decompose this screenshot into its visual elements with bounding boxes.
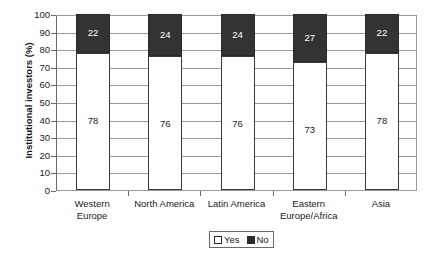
x-axis-tick-mark [273, 191, 274, 196]
y-axis-tick-label: 20 [20, 151, 50, 161]
bar-segment-no[interactable]: 24 [148, 14, 182, 56]
y-axis-tick-label: 80 [20, 45, 50, 55]
bar-value-label-no: 22 [377, 28, 388, 38]
y-axis-tick-label: 10 [20, 168, 50, 178]
plot-area: 78227624762473277822 [56, 15, 417, 191]
y-axis-tick-label: 70 [20, 63, 50, 73]
chart-legend: Yes No [209, 231, 274, 248]
x-axis-category-label: Asia [333, 198, 429, 210]
y-axis-tick-label: 30 [20, 133, 50, 143]
legend-entry-yes: Yes [214, 235, 240, 245]
bar-segment-no[interactable]: 22 [76, 14, 110, 53]
bar-value-label-yes: 73 [304, 125, 315, 135]
x-axis-tick-mark [200, 191, 201, 196]
x-axis-category-label-line: Europe/Africa [261, 210, 357, 222]
bar-value-label-no: 24 [232, 30, 243, 40]
y-axis-tick-mark [51, 191, 56, 192]
y-axis-tick-label: 60 [20, 80, 50, 90]
bar-segment-yes[interactable]: 73 [293, 62, 327, 190]
y-axis-tick-label: 50 [20, 98, 50, 108]
legend-label-yes: Yes [224, 235, 240, 245]
x-axis-tick-mark [345, 191, 346, 196]
bar-value-label-yes: 78 [88, 116, 99, 126]
bar-value-label-yes: 76 [160, 119, 171, 129]
bar-value-label-no: 27 [304, 33, 315, 43]
bar-value-label-yes: 78 [377, 116, 388, 126]
bar-segment-no[interactable]: 22 [365, 14, 399, 53]
legend-entry-no: No [247, 235, 269, 245]
legend-label-no: No [257, 235, 269, 245]
y-axis-tick-label: 100 [20, 10, 50, 20]
bar-segment-no[interactable]: 27 [293, 14, 327, 62]
x-axis-category-label-line: Europe [44, 210, 140, 222]
x-axis-category-label-line: Asia [333, 198, 429, 210]
bar-segment-yes[interactable]: 78 [365, 53, 399, 190]
y-axis-tick-label: 0 [20, 186, 50, 196]
bar-segment-yes[interactable]: 78 [76, 53, 110, 190]
y-axis-tick-label: 40 [20, 116, 50, 126]
x-axis-tick-mark [128, 191, 129, 196]
bar-value-label-yes: 76 [232, 119, 243, 129]
legend-swatch-yes [214, 236, 222, 244]
bar-segment-yes[interactable]: 76 [148, 56, 182, 190]
legend-swatch-no [247, 236, 255, 244]
bar-segment-yes[interactable]: 76 [221, 56, 255, 190]
bar-segment-no[interactable]: 24 [221, 14, 255, 56]
stacked-bar-chart: Institutional investors (%) 100908070605… [0, 0, 432, 270]
bar-value-label-no: 24 [160, 30, 171, 40]
y-axis-tick-label: 90 [20, 28, 50, 38]
bar-value-label-no: 22 [88, 28, 99, 38]
